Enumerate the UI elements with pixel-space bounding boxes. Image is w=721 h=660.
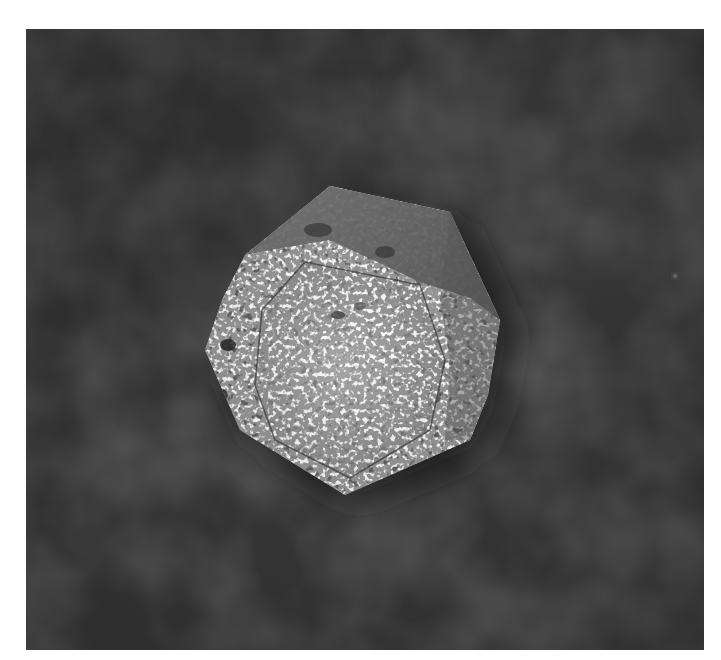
photograph: Black-and-white photograph of a faceted,…: [26, 29, 704, 650]
stone-photo-illustration: [26, 29, 704, 650]
